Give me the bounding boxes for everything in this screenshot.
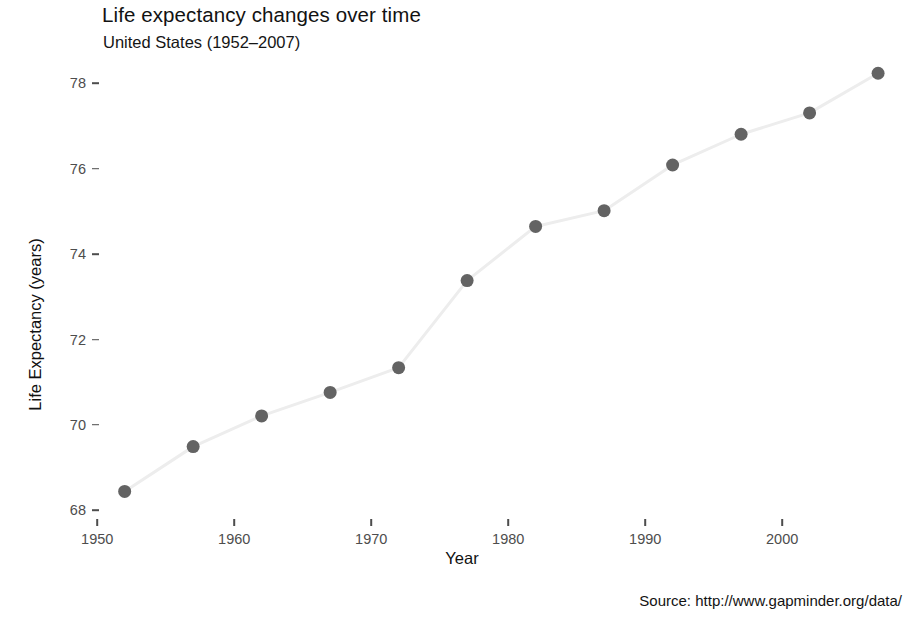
x-tick-mark — [644, 519, 646, 526]
chart-title: Life expectancy changes over time — [102, 3, 421, 27]
data-point[interactable] — [666, 158, 679, 171]
x-tick-mark — [233, 519, 235, 526]
y-tick-mark — [92, 253, 99, 255]
x-tick-label: 1980 — [492, 531, 524, 547]
y-tick-mark — [92, 424, 99, 426]
data-point[interactable] — [735, 128, 748, 141]
chart-caption: Source: http://www.gapminder.org/data/ — [639, 592, 902, 609]
y-tick-mark — [92, 339, 99, 341]
chart-subtitle: United States (1952–2007) — [103, 33, 300, 52]
x-tick-label: 1960 — [218, 531, 250, 547]
plot-panel — [100, 60, 900, 523]
data-point[interactable] — [872, 67, 885, 80]
y-tick-mark — [92, 509, 99, 511]
y-axis-title: Life Expectancy (years) — [26, 195, 45, 455]
x-tick-mark — [370, 519, 372, 526]
x-tick-mark — [96, 519, 98, 526]
y-tick-label: 68 — [70, 502, 86, 518]
x-tick-label: 2000 — [766, 531, 798, 547]
y-tick-label: 78 — [70, 75, 86, 91]
data-point[interactable] — [529, 220, 542, 233]
x-tick-label: 1950 — [81, 531, 113, 547]
series-line — [125, 73, 878, 491]
x-tick-mark — [507, 519, 509, 526]
x-tick-mark — [781, 519, 783, 526]
data-point[interactable] — [598, 204, 611, 217]
chart-container: Life expectancy changes over time United… — [0, 0, 924, 623]
x-tick-label: 1990 — [629, 531, 661, 547]
data-point[interactable] — [392, 361, 405, 374]
y-tick-mark — [92, 83, 99, 85]
y-tick-label: 72 — [70, 332, 86, 348]
y-tick-label: 74 — [70, 246, 86, 262]
x-axis-title: Year — [0, 549, 924, 568]
data-point[interactable] — [324, 386, 337, 399]
plot-svg — [100, 60, 900, 523]
x-tick-label: 1970 — [355, 531, 387, 547]
y-tick-mark — [92, 168, 99, 170]
data-point[interactable] — [461, 274, 474, 287]
data-point[interactable] — [255, 409, 268, 422]
y-tick-label: 70 — [70, 417, 86, 433]
y-tick-label: 76 — [70, 161, 86, 177]
data-point[interactable] — [803, 106, 816, 119]
data-point[interactable] — [187, 440, 200, 453]
data-point[interactable] — [118, 485, 131, 498]
